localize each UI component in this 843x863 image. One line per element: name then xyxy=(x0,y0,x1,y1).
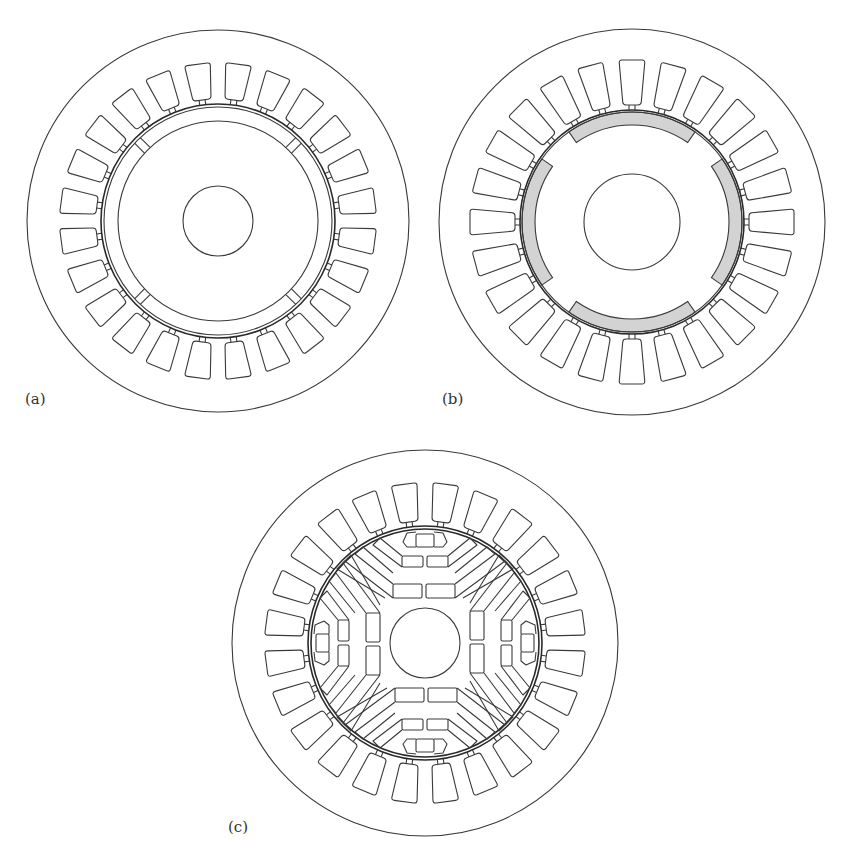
stator-slot xyxy=(265,610,305,636)
flux-barrier xyxy=(355,702,395,739)
stator-slot xyxy=(185,63,211,101)
rotor-bridge-edge xyxy=(140,138,150,148)
shaft-circle xyxy=(183,186,253,256)
stator-slot xyxy=(353,753,386,795)
stator-outer-circle xyxy=(27,30,409,412)
stator-slot xyxy=(684,76,724,124)
stator-bore xyxy=(308,526,542,760)
stator-slot xyxy=(86,289,126,326)
embedded-magnet xyxy=(501,620,512,641)
permanent-magnet xyxy=(711,159,742,285)
embedded-magnet xyxy=(501,645,512,666)
stator-slot xyxy=(392,763,418,803)
stator-slot xyxy=(464,753,497,795)
flux-barrier xyxy=(320,591,349,620)
stator-slot xyxy=(493,509,532,550)
embedded-magnet xyxy=(470,644,484,673)
stator-slot xyxy=(509,299,554,344)
stator-slot xyxy=(517,711,558,750)
stator-slot xyxy=(709,99,754,144)
stator-slot xyxy=(730,131,778,171)
shaft-circle xyxy=(584,174,680,270)
panel-b-surface-mounted-pm-motor xyxy=(439,29,825,415)
stator-slot xyxy=(338,228,376,254)
flux-barrier xyxy=(455,547,495,584)
stator-slot xyxy=(257,331,290,371)
stator-slot xyxy=(578,333,610,381)
embedded-magnet xyxy=(402,556,423,567)
panel-a-label: (a) xyxy=(25,390,46,408)
stator-slot xyxy=(535,571,577,604)
stator-bore xyxy=(101,104,335,338)
rotor-inner-circle xyxy=(118,121,318,321)
stator-slot xyxy=(225,341,251,379)
rotor-bridge-edge xyxy=(286,295,296,305)
rotor-bridge-edge xyxy=(286,138,296,148)
stator-slots xyxy=(60,63,376,379)
rotor-pole xyxy=(314,555,380,731)
stator-slot xyxy=(392,483,418,523)
stator-slot xyxy=(749,209,794,235)
stator-slot xyxy=(517,536,558,575)
panel-c-label: (c) xyxy=(228,818,248,836)
rotor-bridge-edge xyxy=(292,143,302,153)
stator-slot xyxy=(509,99,554,144)
embedded-magnet xyxy=(416,534,434,547)
embedded-magnet xyxy=(402,719,423,730)
stator-slots xyxy=(265,483,585,803)
stator-slot xyxy=(291,711,332,750)
rotor-outer-circle xyxy=(311,529,539,757)
stator-slot xyxy=(470,209,515,235)
stator-slot xyxy=(291,536,332,575)
stator-slot xyxy=(541,76,581,124)
stator-slot xyxy=(619,339,645,384)
rotor-outer-circle xyxy=(104,107,332,335)
stator-slot xyxy=(68,149,108,182)
stator-slot xyxy=(654,63,686,111)
stator-slot xyxy=(257,71,290,111)
stator-slot xyxy=(743,168,791,200)
flux-barrier xyxy=(484,673,521,713)
embedded-magnet xyxy=(470,611,484,640)
flux-barrier xyxy=(320,666,349,695)
stator-outer-circle xyxy=(439,29,825,415)
flux-barrier xyxy=(457,702,495,739)
rotor-pole xyxy=(337,688,513,754)
stator-outer-circle xyxy=(232,450,618,836)
stator-slot xyxy=(684,320,724,368)
stator-slot xyxy=(68,260,108,293)
stator-slot xyxy=(545,610,585,636)
embedded-magnet xyxy=(395,688,424,702)
stator-slot xyxy=(486,131,534,171)
stator-slot xyxy=(545,650,585,676)
stator-slot xyxy=(464,491,497,533)
stator-slot xyxy=(310,116,350,153)
stator-slot xyxy=(432,483,458,523)
stator-slot xyxy=(113,313,150,353)
shaft-circle xyxy=(390,608,460,678)
panel-b-label: (b) xyxy=(442,390,463,408)
panel-a-surface-inset-pm-motor xyxy=(27,30,409,412)
stator-slot xyxy=(535,682,577,715)
stator-slot xyxy=(185,341,211,379)
panel-c-multilayer-ipm-motor xyxy=(232,450,618,836)
stator-slot xyxy=(286,313,323,353)
flux-barrier xyxy=(501,591,530,620)
embedded-magnet xyxy=(338,645,349,666)
stator-slot xyxy=(338,188,376,214)
surface-magnets xyxy=(522,112,742,332)
stator-slot xyxy=(113,89,150,129)
rotor-outer-circle xyxy=(522,112,742,332)
stator-slot xyxy=(318,735,357,776)
flux-barrier xyxy=(373,719,402,748)
rotor-bridges xyxy=(135,138,302,305)
embedded-magnet xyxy=(366,613,380,642)
stator-slot xyxy=(619,60,645,105)
stator-slot xyxy=(654,333,686,381)
permanent-magnet xyxy=(569,301,695,332)
stator-slot xyxy=(310,289,350,326)
stator-slot xyxy=(473,244,521,276)
flux-barrier xyxy=(448,719,477,748)
permanent-magnet xyxy=(522,159,553,285)
stator-bore xyxy=(520,110,744,334)
